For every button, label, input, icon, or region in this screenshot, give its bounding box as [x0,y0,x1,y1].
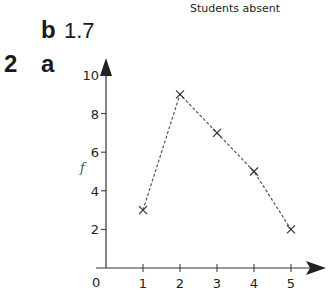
data-point-x-marker-icon [176,90,184,98]
origin-label: 0 [92,275,100,290]
x-tick-label: 3 [213,276,221,291]
y-tick-label: 6 [91,145,99,160]
y-axis-arrow-icon [100,58,112,76]
series-line [143,94,291,229]
x-tick-label: 1 [139,276,147,291]
axes [96,58,326,275]
y-ticks: 246810 [82,68,106,237]
y-axis-label: f [79,160,87,175]
data-point-x-marker-icon [139,206,147,214]
x-tick-label: 4 [250,276,258,291]
data-series [139,90,295,233]
data-point-x-marker-icon [287,225,295,233]
frequency-polygon-chart: 246810 12345 0 f [0,0,332,300]
data-point-x-marker-icon [250,168,258,176]
data-point-x-marker-icon [213,129,221,137]
y-tick-label: 4 [91,184,99,199]
y-tick-label: 8 [91,107,99,122]
x-tick-label: 2 [176,276,184,291]
y-tick-label: 10 [82,68,99,83]
x-tick-label: 5 [287,276,295,291]
y-tick-label: 2 [91,222,99,237]
